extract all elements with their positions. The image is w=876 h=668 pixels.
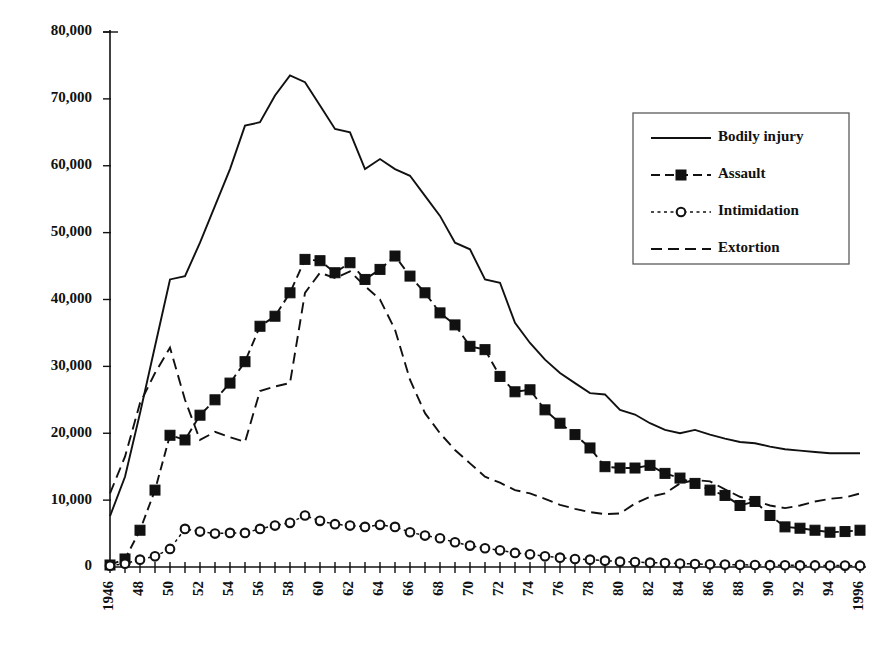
series-marker-square [810,525,820,535]
series-marker-circle [316,517,325,526]
series-marker-circle [526,550,535,559]
series-marker-circle [181,525,190,534]
series-marker-square [510,387,520,397]
series-marker-circle [481,544,490,553]
x-tick-label: 68 [430,581,446,596]
series-marker-circle [601,556,610,565]
y-tick-label: 60,000 [51,156,92,172]
x-tick-label: 70 [460,581,476,596]
series-marker-circle [331,520,340,529]
series-marker-square [735,500,745,510]
series-intimidation [106,511,865,570]
series-marker-circle [196,527,205,536]
x-tick-label: 1996 [850,581,866,612]
x-tick-label: 80 [610,581,626,596]
series-marker-circle [376,521,385,530]
x-tick-label: 72 [490,581,506,596]
legend-item-label: Bodily injury [718,128,804,144]
series-marker-circle [166,545,175,554]
series-marker-circle [391,523,400,532]
series-marker-circle [136,555,145,564]
x-tick-label: 90 [760,581,776,596]
series-marker-circle [211,529,220,538]
series-marker-square [840,527,850,537]
series-marker-square [675,473,685,483]
series-marker-square [420,288,430,298]
x-tick-label: 92 [790,581,806,596]
series-marker-square [615,463,625,473]
x-tick-label: 1946 [100,581,116,612]
series-marker-circle [661,559,670,568]
series-marker-circle [586,555,595,564]
series-marker-circle [256,525,265,534]
x-tick-label: 88 [730,581,746,596]
series-marker-circle [556,553,565,562]
series-marker-square [180,435,190,445]
plot-area: 010,00020,00030,00040,00050,00060,00070,… [51,22,867,611]
y-tick-label: 80,000 [51,22,92,38]
series-marker-square [795,523,805,533]
chart-legend: Bodily injuryAssaultIntimidationExtortio… [633,113,849,264]
series-marker-square [165,430,175,440]
series-marker-circle [301,511,310,520]
series-marker-square [285,288,295,298]
series-marker-square [705,485,715,495]
series-marker-square [135,525,145,535]
series-marker-circle [286,519,295,528]
series-marker-circle [241,529,250,538]
y-tick-label: 0 [85,557,93,573]
series-marker-square [765,511,775,521]
series-marker-circle [511,549,520,558]
series-marker-square [435,308,445,318]
x-tick-label: 74 [520,581,536,597]
series-marker-circle [496,546,505,555]
x-tick-label: 84 [670,581,686,597]
line-chart: 010,00020,00030,00040,00050,00060,00070,… [0,0,876,668]
x-tick-label: 82 [640,581,656,596]
x-tick-label: 48 [130,581,146,596]
series-marker-square [465,341,475,351]
series-marker-square [540,405,550,415]
series-marker-square [150,485,160,495]
series-marker-square [405,271,415,281]
x-tick-label: 66 [400,581,416,597]
series-marker-square [660,468,670,478]
series-marker-circle [706,560,715,569]
series-marker-square [270,311,280,321]
series-marker-circle [466,541,475,550]
legend-item-label: Intimidation [718,202,800,218]
y-tick-label: 70,000 [51,89,92,105]
series-marker-circle [811,561,820,570]
series-marker-square [480,345,490,355]
series-marker-square [555,418,565,428]
series-marker-square [600,462,610,472]
series-marker-circle [346,521,355,530]
series-marker-square [645,460,655,470]
series-marker-circle [421,531,430,540]
series-marker-square [570,430,580,440]
x-tick-label: 94 [820,581,836,597]
series-marker-square [195,410,205,420]
legend-item-label: Assault [718,165,766,181]
series-marker-circle [781,561,790,570]
x-tick-label: 52 [190,581,206,596]
series-marker-square [720,490,730,500]
x-tick-label: 78 [580,581,596,596]
x-tick-label: 60 [310,581,326,596]
series-line [110,256,860,565]
series-marker-circle [691,560,700,569]
series-marker-square [630,463,640,473]
series-marker-square [240,357,250,367]
x-tick-label: 64 [370,581,386,597]
legend-marker-square [676,170,686,180]
series-marker-square [315,256,325,266]
x-tick-label: 86 [700,581,716,597]
series-marker-circle [406,528,415,537]
series-marker-circle [436,534,445,543]
legend-item-label: Extortion [718,239,780,255]
y-axis: 010,00020,00030,00040,00050,00060,00070,… [51,22,118,573]
x-axis: 1946485052545658606264666870727476788082… [100,562,866,611]
series-marker-circle [106,561,115,570]
series-marker-square [345,258,355,268]
chart-canvas: 010,00020,00030,00040,00050,00060,00070,… [0,0,876,668]
